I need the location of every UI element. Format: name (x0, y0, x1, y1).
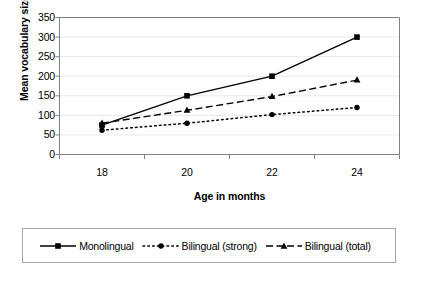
square-marker (55, 243, 61, 249)
legend-item-bilingual-total: Bilingual (total) (265, 240, 379, 252)
series-bilingual-strong (99, 105, 359, 133)
x-tick-label: 18 (82, 166, 122, 178)
legend-item-bilingual-strong: Bilingual (strong) (142, 240, 265, 252)
x-tick-label: 24 (337, 166, 377, 178)
circle-marker (184, 121, 189, 126)
chart-plot-region: Mean vocabulary size 350 300 250 200 150… (0, 0, 423, 215)
x-axis-ticks (60, 155, 400, 160)
series-bilingual-total (99, 76, 361, 125)
vocabulary-growth-line-chart: Mean vocabulary size 350 300 250 200 150… (0, 0, 423, 282)
x-tick-label: 22 (252, 166, 292, 178)
legend-label: Monolingual (79, 240, 133, 252)
y-axis-ticks (56, 18, 60, 155)
x-axis-title: Age in months (59, 190, 400, 202)
circle-marker (354, 105, 359, 110)
series-monolingual (99, 34, 360, 128)
triangle-marker (354, 76, 361, 82)
chart-legend: Monolingual Bilingual (strong) Bilingual… (22, 228, 396, 263)
legend-label: Bilingual (strong) (182, 240, 257, 252)
square-marker (354, 34, 360, 40)
circle-marker (158, 243, 163, 248)
legend-label: Bilingual (total) (305, 240, 371, 252)
plot-svg (0, 0, 423, 215)
dotted-line-swatch (142, 240, 180, 252)
circle-marker (269, 112, 274, 117)
solid-line-swatch (39, 240, 77, 252)
legend-item-monolingual: Monolingual (39, 240, 141, 252)
square-marker (269, 73, 275, 79)
square-marker (184, 93, 190, 99)
x-axis-tick-labels: 18 20 22 24 (59, 166, 400, 180)
dashed-line-swatch (265, 240, 303, 252)
x-tick-label: 20 (167, 166, 207, 178)
circle-marker (99, 128, 104, 133)
